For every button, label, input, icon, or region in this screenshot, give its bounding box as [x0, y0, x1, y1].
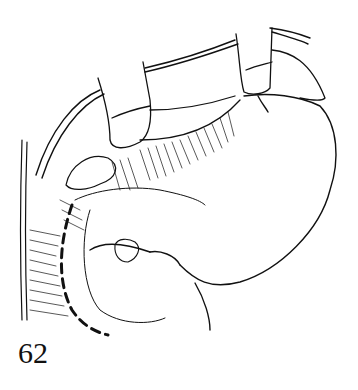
lesser-curvature — [75, 188, 205, 322]
retractor-blades — [98, 28, 325, 148]
liver-contour — [36, 28, 310, 178]
page-number: 62 — [18, 336, 48, 370]
omentum-hatching — [30, 112, 234, 316]
ulcer-crater — [115, 239, 139, 262]
spleen-lobe — [66, 157, 116, 190]
retractor-lines — [21, 140, 28, 320]
surgical-illustration — [0, 0, 358, 390]
stomach-outline — [90, 94, 336, 330]
